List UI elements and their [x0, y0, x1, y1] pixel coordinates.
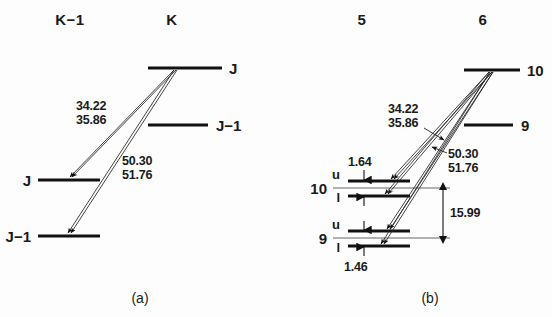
panel-b-sublevel-label-upper-u: u: [332, 167, 340, 182]
panel-b-value-upper-line2: 35.86: [388, 116, 419, 130]
panel-a-value-lower-line2: 51.76: [122, 168, 153, 182]
panel-b-sublevel-label-lower-u: u: [332, 217, 340, 232]
panel-b-header-right: 6: [479, 11, 488, 28]
panel-b-sublevel-label-upper-l: l: [336, 190, 340, 205]
panel-a-transition-lower-1: [68, 70, 174, 233]
panel-a-value-upper-line1: 34.22: [76, 99, 107, 113]
panel-b-value-lower-line1: 50.30: [448, 147, 479, 161]
panel-b-transition-upper-4: [388, 72, 492, 194]
panel-a-header-left: K−1: [55, 11, 84, 28]
panel-a-transition-lower-2: [71, 70, 177, 233]
panel-a-level-label-left-upper: J: [23, 172, 31, 189]
energy-level-figure: K−1 K J J−1 J J−1 34.22 35.86 50.30 51.7…: [0, 0, 552, 317]
panel-b-leader-upper: [424, 128, 444, 140]
panel-b-separation-arrow-down: [439, 236, 447, 244]
panel-b-value-lower-line2: 51.76: [448, 161, 479, 175]
panel-b-transition-upper-3: [385, 72, 489, 194]
panel-a-header-right: K: [166, 11, 177, 28]
panel-b-level-label-right-lower: 9: [521, 117, 529, 134]
panel-b-splitting-value-upper: 1.64: [348, 155, 372, 169]
panel-b-level-label-right-upper: 10: [527, 62, 544, 79]
panel-a: K−1 K J J−1 J J−1 34.22 35.86 50.30 51.7…: [6, 11, 242, 306]
diagram-canvas: K−1 K J J−1 J J−1 34.22 35.86 50.30 51.7…: [0, 0, 552, 317]
panel-b-splitting-value-lower: 1.46: [344, 260, 368, 274]
panel-b-sublevel-label-lower-l: l: [336, 240, 340, 255]
panel-b-caption: (b): [421, 290, 438, 306]
panel-a-level-label-right-upper: J: [229, 60, 237, 77]
panel-a-caption: (a): [131, 290, 148, 306]
panel-a-level-label-left-lower: J−1: [6, 228, 31, 245]
panel-b: 5 6 10 9 10 u l 1.64 9: [310, 11, 543, 306]
panel-b-separation-value: 15.99: [450, 206, 481, 220]
panel-b-separation-arrow-up: [439, 182, 447, 190]
panel-b-level-label-left-lower: 9: [319, 230, 327, 247]
panel-a-level-label-right-lower: J−1: [216, 117, 241, 134]
panel-b-value-upper-line1: 34.22: [388, 102, 419, 116]
panel-a-value-upper-line2: 35.86: [76, 113, 107, 127]
panel-a-value-lower-line1: 50.30: [122, 154, 153, 168]
panel-b-level-label-left-upper: 10: [310, 180, 327, 197]
panel-b-header-left: 5: [358, 11, 367, 28]
